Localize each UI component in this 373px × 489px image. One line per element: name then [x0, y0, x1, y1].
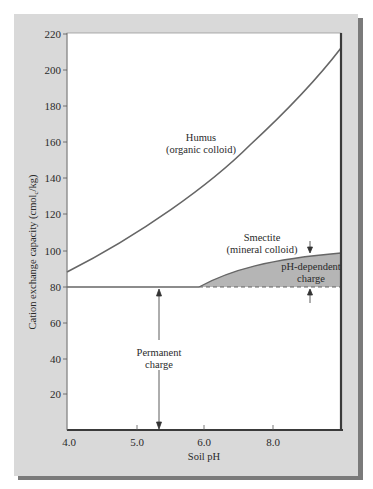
x-tick-label: 6.0: [197, 436, 211, 448]
x-tick-label: 8.0: [266, 436, 280, 448]
chart-figure: 220 200 180 160 140 120 100 80 60 40 20 …: [0, 0, 373, 489]
y-tick-label: 40: [50, 353, 62, 365]
ph-dependent-label-line1: pH-dependent: [281, 261, 341, 272]
smectite-label-line2: (mineral colloid): [227, 244, 298, 256]
y-tick-label: 160: [45, 136, 62, 148]
y-tick-label: 60: [50, 317, 62, 329]
x-tick-label: 5.0: [130, 436, 144, 448]
y-tick-label: 140: [45, 172, 62, 184]
y-tick-label: 20: [50, 388, 62, 400]
permanent-charge-label-line2: charge: [145, 359, 173, 370]
plot-area: [67, 33, 341, 430]
humus-label-line2: (organic colloid): [166, 144, 237, 156]
y-tick-label: 120: [45, 208, 62, 220]
y-tick-label: 100: [45, 245, 62, 257]
y-tick-label: 80: [50, 281, 62, 293]
humus-label-line1: Humus: [186, 132, 216, 143]
x-axis-title: Soil pH: [188, 451, 221, 462]
permanent-charge-label-line1: Permanent: [137, 347, 182, 358]
ph-dependent-label-line2: charge: [297, 273, 325, 284]
y-tick-label: 180: [45, 100, 62, 112]
x-tick-label: 4.0: [62, 436, 76, 448]
smectite-label-line1: Smectite: [244, 232, 281, 243]
y-tick-label: 200: [45, 64, 62, 76]
y-tick-label: 220: [45, 28, 62, 40]
